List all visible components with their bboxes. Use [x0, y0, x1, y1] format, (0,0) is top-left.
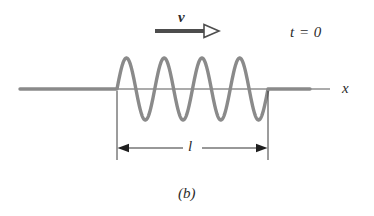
figure-caption: (b) [178, 186, 196, 201]
x-axis-label: x [342, 81, 349, 96]
velocity-label: v [178, 10, 185, 25]
wave-pulse-figure: v t = 0 x l (b) [0, 0, 374, 216]
length-label: l [188, 139, 192, 154]
time-label: t = 0 [290, 25, 322, 40]
